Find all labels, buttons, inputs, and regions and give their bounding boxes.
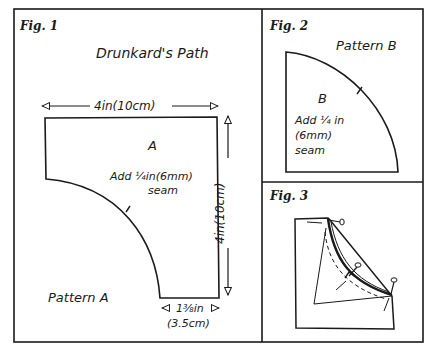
dim-top-label: 4in(10cm)	[94, 99, 156, 113]
dim-bottom-line2: (3.5cm)	[167, 317, 210, 330]
dimension-right: 4in(10cm)	[213, 116, 228, 295]
pattern-b-letter: B	[318, 91, 327, 106]
figure-1: Fig. 1 Drunkard's Path 4in(10cm) A Add ¼…	[19, 19, 228, 330]
pattern-a-name: Pattern A	[48, 290, 109, 305]
fig2-label: Fig. 2	[269, 19, 308, 33]
pattern-b-seam-line1: Add ¼ in	[294, 114, 344, 127]
fig1-label: Fig. 1	[19, 19, 58, 33]
pattern-a-seam-line1: Add ¼in(6mm)	[109, 170, 193, 183]
fig3-outer-piece	[295, 218, 394, 329]
dim-bottom-line1: 1⅜in	[176, 302, 204, 315]
pin-icon	[349, 263, 361, 276]
pattern-a-notch	[126, 206, 130, 212]
fig3-pointer-2	[384, 298, 389, 311]
dimension-top: 4in(10cm)	[42, 99, 218, 113]
pattern-a-seam-line2: seam	[148, 184, 178, 197]
fig3-label: Fig. 3	[269, 189, 308, 203]
fig3-top-mark	[307, 222, 322, 223]
figure-3: Fig. 3	[269, 189, 397, 329]
fig3-pointer-1	[336, 281, 346, 290]
dim-right-label: 4in(10cm)	[213, 183, 227, 245]
pin-icon	[391, 278, 397, 294]
drunkards-path-diagram: Fig. 1 Drunkard's Path 4in(10cm) A Add ¼…	[0, 0, 428, 346]
figure-2: Fig. 2 Pattern B B Add ¼ in (6mm) seam	[269, 19, 398, 172]
pattern-a-shape	[45, 117, 219, 298]
fig1-title: Drunkard's Path	[96, 45, 209, 61]
pattern-a-letter: A	[147, 138, 157, 153]
pattern-b-name: Pattern B	[336, 38, 397, 53]
pattern-b-seam-line3: seam	[295, 144, 325, 157]
dimension-bottom: 1⅜in (3.5cm)	[162, 302, 219, 330]
pattern-b-seam-line2: (6mm)	[295, 129, 332, 142]
